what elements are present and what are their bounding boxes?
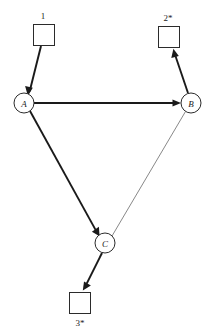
terminal-square-shape[interactable] (34, 25, 55, 46)
node-b[interactable]: B (181, 93, 201, 113)
terminal-1[interactable]: 1 (34, 11, 55, 46)
node-c[interactable]: C (95, 233, 115, 253)
edge-b-to-terminal2 (171, 49, 188, 93)
edge-a-to-b (34, 100, 181, 107)
terminal-2-label: 2* (164, 13, 174, 23)
terminal-square-shape[interactable] (159, 27, 180, 48)
diagram-canvas: 1 2* 3* A B C (0, 0, 207, 336)
edge-c-to-b (112, 112, 186, 237)
node-b-label: B (188, 99, 194, 109)
node-a-label: A (20, 99, 27, 109)
terminal-2[interactable]: 2* (159, 13, 180, 48)
node-c-label: C (102, 239, 109, 249)
terminal-3-label: 3* (76, 318, 86, 328)
edge-line (175, 56, 188, 94)
graph-diagram: 1 2* 3* A B C (0, 0, 207, 336)
terminal-square-shape[interactable] (70, 293, 91, 314)
arrowhead-icon (173, 100, 182, 107)
terminal-1-label: 1 (41, 11, 46, 21)
node-a[interactable]: A (14, 93, 34, 113)
edge-terminal1-to-a (25, 46, 41, 96)
edge-line (87, 253, 102, 284)
edge-c-to-terminal3 (83, 253, 102, 291)
edge-line (30, 111, 96, 230)
terminal-group: 1 2* 3* (34, 11, 180, 328)
arrowhead-icon (171, 49, 179, 58)
terminal-3[interactable]: 3* (70, 293, 91, 329)
edge-group (25, 46, 188, 291)
edge-line (30, 46, 41, 91)
edge-line (112, 112, 186, 237)
node-group: A B C (14, 93, 201, 253)
edge-a-to-c (30, 111, 100, 236)
